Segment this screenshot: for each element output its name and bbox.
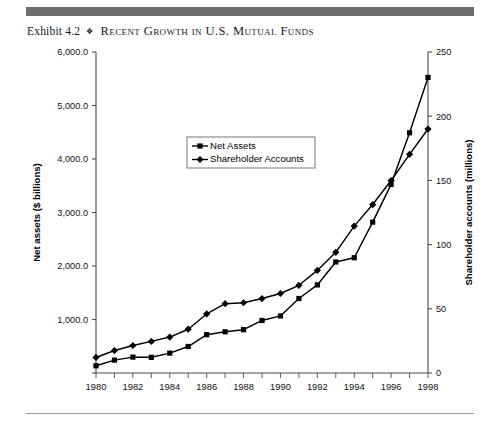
- chart-legend: Net AssetsShareholder Accounts: [187, 137, 315, 168]
- right-axis-tick-label: 200: [436, 112, 451, 122]
- right-axis-tick-label: 50: [436, 304, 446, 314]
- data-point-marker: [277, 290, 284, 297]
- top-decorative-bar: [26, 7, 474, 16]
- exhibit-title: Recent Growth in U.S. Mutual Funds: [101, 24, 314, 38]
- data-point-marker: [93, 363, 98, 368]
- chart-container: 1,000.02,000.03,000.04,000.05,000.06,000…: [0, 40, 500, 410]
- data-point-marker: [296, 296, 301, 301]
- x-axis-tick-label: 1980: [86, 381, 107, 392]
- left-axis-title: Net assets ($ billions): [31, 163, 42, 262]
- data-point-marker: [166, 333, 173, 340]
- series-net-assets: [93, 75, 430, 369]
- data-point-marker: [223, 329, 228, 334]
- data-point-marker: [222, 300, 229, 307]
- data-point-marker: [112, 358, 117, 363]
- data-point-marker: [259, 318, 264, 323]
- data-point-marker: [370, 220, 375, 225]
- data-point-marker: [315, 282, 320, 287]
- growth-line-chart: 1,000.02,000.03,000.04,000.05,000.06,000…: [0, 40, 500, 410]
- left-axis-tick-label: 2,000.0: [57, 261, 88, 271]
- data-point-marker: [111, 347, 118, 354]
- right-axis-tick-label: 150: [436, 176, 451, 186]
- data-point-marker: [333, 259, 338, 264]
- data-point-marker: [278, 313, 283, 318]
- axes-layer: 1,000.02,000.03,000.04,000.05,000.06,000…: [31, 47, 474, 392]
- data-point-marker: [92, 354, 99, 361]
- data-point-marker: [148, 338, 155, 345]
- data-point-marker: [425, 75, 430, 80]
- data-point-marker: [407, 130, 412, 135]
- series-layer: [92, 75, 431, 369]
- right-axis-tick-label: 100: [436, 240, 451, 250]
- data-point-marker: [149, 355, 154, 360]
- data-point-marker: [352, 255, 357, 260]
- x-axis-tick-label: 1990: [270, 381, 291, 392]
- x-axis-tick-label: 1994: [344, 381, 365, 392]
- data-point-marker: [186, 344, 191, 349]
- left-axis-tick-label: 4,000.0: [57, 154, 88, 164]
- left-axis-tick-label: 5,000.0: [57, 101, 88, 111]
- legend-label: Shareholder Accounts: [210, 153, 304, 164]
- data-point-marker: [241, 327, 246, 332]
- right-axis-tick-label: 0: [436, 368, 441, 378]
- bottom-rule: [26, 413, 474, 414]
- x-axis-tick-label: 1992: [307, 381, 328, 392]
- data-point-marker: [129, 342, 136, 349]
- exhibit-heading: Exhibit 4.2❖Recent Growth in U.S. Mutual…: [27, 24, 314, 39]
- right-axis-title: Shareholder accounts (millions): [463, 139, 474, 285]
- legend-marker-square: [197, 143, 202, 148]
- x-axis-tick-label: 1996: [381, 381, 402, 392]
- x-axis-tick-label: 1984: [159, 381, 180, 392]
- data-point-marker: [240, 299, 247, 306]
- data-point-marker: [258, 295, 265, 302]
- legend-label: Net Assets: [210, 140, 256, 151]
- exhibit-page: Exhibit 4.2❖Recent Growth in U.S. Mutual…: [0, 0, 500, 427]
- data-point-marker: [167, 351, 172, 356]
- data-point-marker: [130, 355, 135, 360]
- x-axis-tick-label: 1982: [122, 381, 143, 392]
- exhibit-number: Exhibit 4.2: [27, 25, 80, 37]
- x-axis-tick-label: 1986: [196, 381, 217, 392]
- x-axis-tick-label: 1998: [418, 381, 439, 392]
- left-axis-tick-label: 3,000.0: [57, 208, 88, 218]
- diamond-icon: ❖: [86, 27, 93, 36]
- right-axis-tick-label: 250: [436, 47, 451, 57]
- left-axis-tick-label: 1,000.0: [57, 315, 88, 325]
- left-axis-tick-label: 6,000.0: [57, 47, 88, 57]
- x-axis-tick-label: 1988: [233, 381, 254, 392]
- data-point-marker: [204, 332, 209, 337]
